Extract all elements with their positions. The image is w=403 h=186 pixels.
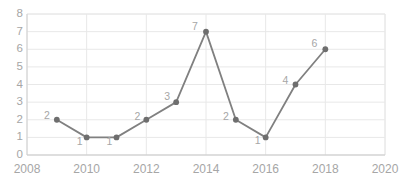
data-point-label: 7 <box>188 21 202 32</box>
y-axis-tick-label: 5 <box>5 61 23 73</box>
data-point-label: 2 <box>40 110 54 121</box>
x-axis-tick-label: 2018 <box>302 163 348 175</box>
y-axis-tick-label: 7 <box>5 26 23 38</box>
x-axis-tick-label: 2012 <box>123 163 169 175</box>
x-axis-tick-label: 2010 <box>64 163 110 175</box>
x-axis-tick-label: 2020 <box>362 163 403 175</box>
data-point-label: 6 <box>307 38 321 49</box>
y-axis-tick-label: 1 <box>5 131 23 143</box>
y-axis-tick-label: 2 <box>5 114 23 126</box>
y-axis-tick-label: 6 <box>5 43 23 55</box>
data-point-label: 1 <box>103 136 117 147</box>
x-axis-tick-label: 2016 <box>243 163 289 175</box>
data-point-label: 1 <box>73 136 87 147</box>
x-axis-tick-label: 2008 <box>4 163 50 175</box>
data-point-marker <box>293 82 299 88</box>
data-point-label: 1 <box>251 135 265 146</box>
y-axis-tick-label: 0 <box>5 149 23 161</box>
data-point-marker <box>233 117 239 123</box>
data-point-label: 3 <box>160 91 174 102</box>
y-axis-tick-label: 4 <box>5 79 23 91</box>
data-point-marker <box>54 117 60 123</box>
x-axis-tick-label: 2014 <box>183 163 229 175</box>
data-point-label: 2 <box>130 111 144 122</box>
y-axis-tick-label: 8 <box>5 8 23 20</box>
data-point-label: 2 <box>219 111 233 122</box>
data-point-marker <box>322 46 328 52</box>
y-axis-tick-label: 3 <box>5 96 23 108</box>
data-point-label: 4 <box>279 75 293 86</box>
data-point-marker <box>203 29 209 35</box>
line-chart: 012345678 2008201020122014201620182020 2… <box>0 0 403 186</box>
